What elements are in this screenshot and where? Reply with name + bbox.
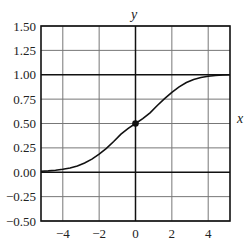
y-tick-label: 1.25 xyxy=(13,43,36,58)
x-tick-label: −4 xyxy=(56,226,70,241)
y-tick-label: 0.50 xyxy=(13,116,36,131)
x-tick-label: −2 xyxy=(92,226,106,241)
y-tick-label: 1.00 xyxy=(13,67,36,82)
data-points xyxy=(132,120,139,127)
y-tick-label: 0.00 xyxy=(13,165,36,180)
x-axis-label: x xyxy=(236,111,244,126)
x-tick-label: 2 xyxy=(169,226,176,241)
sigmoid-chart: 1.501.251.000.750.500.250.00−0.25−0.50 −… xyxy=(0,0,251,250)
y-tick-label: 0.75 xyxy=(13,92,36,107)
y-axis-label: y xyxy=(129,7,138,22)
y-tick-label: 0.25 xyxy=(13,140,36,155)
marked-point xyxy=(132,120,139,127)
x-tick-labels: −4−2024 xyxy=(56,226,212,241)
y-tick-labels: 1.501.251.000.750.500.250.00−0.25−0.50 xyxy=(6,19,36,229)
y-tick-label: 1.50 xyxy=(13,19,36,34)
y-tick-label: −0.25 xyxy=(6,189,36,204)
x-tick-label: 0 xyxy=(132,226,139,241)
x-tick-label: 4 xyxy=(205,226,212,241)
y-tick-label: −0.50 xyxy=(6,214,36,229)
